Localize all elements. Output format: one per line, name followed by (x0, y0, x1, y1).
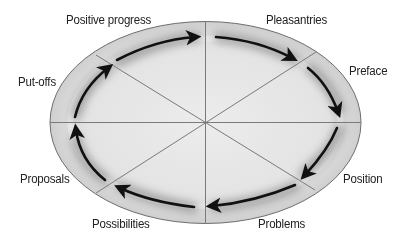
stage-label-put-offs: Put-offs (18, 75, 56, 89)
stage-label-position: Position (343, 172, 382, 186)
stage-label-pleasantries: Pleasantries (266, 13, 327, 27)
stage-label-positive-progress: Positive progress (66, 13, 151, 27)
ellipse-diagram-graphic (0, 0, 403, 246)
cycle-diagram: Positive progress Pleasantries Preface P… (0, 0, 403, 246)
stage-label-problems: Problems (258, 217, 305, 231)
stage-label-proposals: Proposals (20, 172, 69, 186)
stage-label-possibilities: Possibilities (92, 217, 150, 231)
stage-label-preface: Preface (349, 64, 387, 78)
